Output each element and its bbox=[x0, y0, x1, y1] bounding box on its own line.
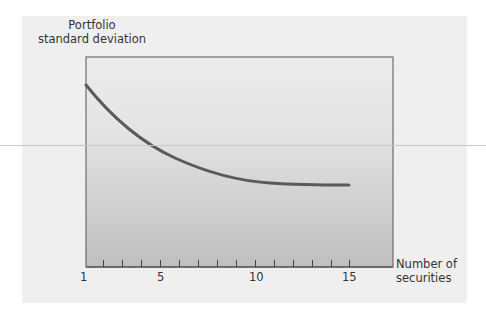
x-label-line2: securities bbox=[396, 271, 457, 285]
x-label-line1: Number of bbox=[396, 257, 457, 271]
plot-area bbox=[86, 57, 393, 267]
x-axis-label: Number of securities bbox=[396, 257, 457, 285]
tick-label-10: 10 bbox=[249, 270, 264, 284]
y-axis-label: Portfolio standard deviation bbox=[22, 18, 162, 46]
y-label-line1: Portfolio bbox=[22, 18, 162, 32]
y-label-line2: standard deviation bbox=[22, 32, 162, 46]
tick-label-1: 1 bbox=[80, 270, 87, 284]
tick-label-15: 15 bbox=[342, 270, 357, 284]
tick-label-5: 5 bbox=[157, 270, 164, 284]
scan-line bbox=[0, 145, 486, 146]
